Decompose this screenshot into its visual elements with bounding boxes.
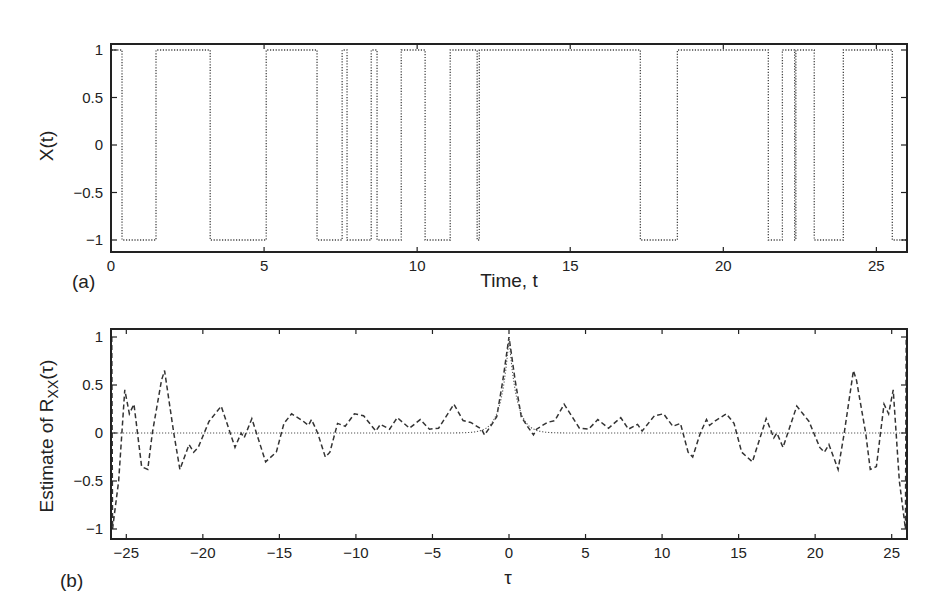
x-tick-label: 15 <box>562 257 579 274</box>
panel-a-label: (a) <box>72 271 95 292</box>
x-tick-label: 25 <box>883 544 900 561</box>
panel-b-plot: −25−20−15−10−50510152025 10.50−0.5−1 τ E… <box>36 328 907 591</box>
panel-b-y-axis-label: Estimate of RXX(τ) <box>36 360 61 513</box>
y-tick-label: 0 <box>95 424 103 441</box>
panel-b-label: (b) <box>60 570 83 591</box>
x-tick-label: −5 <box>424 544 441 561</box>
panel-a-frame <box>111 44 907 252</box>
y-tick-label: 0.5 <box>82 376 103 393</box>
ylabel-main: Estimate of R <box>36 398 57 512</box>
panel-a-plot: 0510152025 10.50−0.5−1 Time, t X(t) (a) <box>36 41 907 292</box>
x-tick-label: 20 <box>807 544 824 561</box>
x-tick-label: 5 <box>581 544 589 561</box>
x-tick-label: 15 <box>730 544 747 561</box>
ylabel-subscript: XX <box>45 379 61 398</box>
y-tick-label: 1 <box>95 41 103 58</box>
x-tick-label: −15 <box>267 544 292 561</box>
x-tick-label: −10 <box>343 544 368 561</box>
y-tick-label: 0.5 <box>82 89 103 106</box>
autocorrelation-lines <box>111 337 907 529</box>
y-tick-label: −1 <box>86 231 103 248</box>
x-tick-label: 0 <box>505 544 513 561</box>
ylabel-suffix: (τ) <box>36 360 57 380</box>
telegraph-signal-line <box>112 50 907 240</box>
x-tick-label: 0 <box>107 257 115 274</box>
y-tick-label: 1 <box>95 328 103 345</box>
estimated-autocorrelation-line <box>112 337 906 529</box>
figure: 0510152025 10.50−0.5−1 Time, t X(t) (a) … <box>0 0 942 616</box>
x-tick-label: −20 <box>190 544 215 561</box>
panel-a-y-axis-label: X(t) <box>36 131 57 162</box>
panel-b-x-axis-label: τ <box>504 567 512 588</box>
y-tick-label: 0 <box>95 136 103 153</box>
x-tick-label: −25 <box>114 544 139 561</box>
x-tick-label: 10 <box>654 544 671 561</box>
x-of-t-line <box>112 50 907 240</box>
x-tick-label: 25 <box>868 257 885 274</box>
y-tick-label: −0.5 <box>73 472 103 489</box>
x-tick-label: 10 <box>409 257 426 274</box>
theoretical-autocorrelation-line <box>111 337 907 433</box>
y-tick-label: −1 <box>86 520 103 537</box>
x-tick-label: 5 <box>260 257 268 274</box>
x-tick-label: 20 <box>715 257 732 274</box>
panel-a-x-axis-label: Time, t <box>480 270 538 291</box>
y-tick-label: −0.5 <box>73 184 103 201</box>
